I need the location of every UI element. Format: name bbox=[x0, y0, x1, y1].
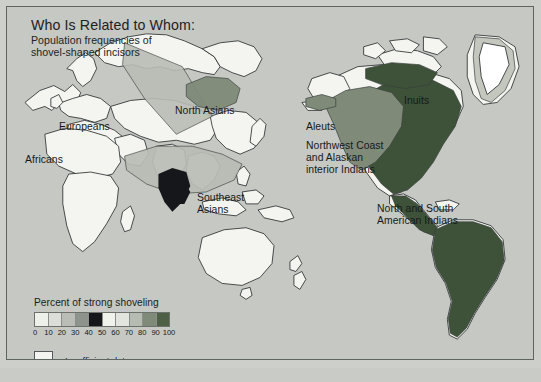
map-label-american-indians-line-1: North and South bbox=[377, 203, 453, 215]
map-label-africans: Africans bbox=[25, 154, 63, 166]
legend-tick-70: 70 bbox=[125, 328, 133, 337]
map-label-southeast-asians-line-1: Southeast bbox=[197, 192, 244, 204]
legend-swatch-3 bbox=[76, 313, 90, 326]
map-label-northwest-coast-line-1: Northwest Coast bbox=[306, 140, 384, 152]
map-label-northwest-coast-line-2: and Alaskan bbox=[306, 152, 363, 164]
legend-insufficient-data-row: Insufficient data bbox=[34, 351, 170, 360]
legend-swatch-5 bbox=[103, 313, 117, 326]
page-subtitle-line-2: shovel-shaped incisors bbox=[31, 46, 195, 59]
legend-swatch-8 bbox=[143, 313, 157, 326]
legend-tick-50: 50 bbox=[98, 328, 106, 337]
title-block: Who Is Related to Whom: Population frequ… bbox=[31, 17, 195, 59]
map-legend: Percent of strong shoveling 010203040506… bbox=[34, 297, 170, 360]
legend-swatch-6 bbox=[116, 313, 130, 326]
legend-insufficient-data-swatch bbox=[34, 351, 53, 360]
legend-tick-40: 40 bbox=[84, 328, 92, 337]
legend-swatch-0 bbox=[35, 313, 49, 326]
legend-title: Percent of strong shoveling bbox=[34, 297, 170, 308]
legend-swatch-4 bbox=[89, 313, 103, 326]
map-label-north-asians: North Asians bbox=[175, 105, 235, 117]
map-label-northwest-coast-line-3: interior Indians bbox=[306, 164, 375, 176]
map-figure-frame: .coast{stroke:#2b2f30;stroke-width:.85;s… bbox=[6, 6, 534, 360]
map-label-southeast-asians-line-2: Asians bbox=[197, 204, 229, 216]
legend-swatch-2 bbox=[62, 313, 76, 326]
figure-root: .coast{stroke:#2b2f30;stroke-width:.85;s… bbox=[0, 0, 541, 382]
legend-color-ramp bbox=[34, 312, 170, 327]
legend-tick-30: 30 bbox=[71, 328, 79, 337]
legend-tick-80: 80 bbox=[138, 328, 146, 337]
map-label-aleuts: Aleuts bbox=[306, 121, 335, 133]
map-label-europeans: Europeans bbox=[59, 121, 110, 133]
legend-swatch-1 bbox=[49, 313, 63, 326]
legend-tick-10: 10 bbox=[44, 328, 52, 337]
legend-swatch-9 bbox=[157, 313, 170, 326]
map-label-american-indians-line-2: American Indians bbox=[377, 215, 458, 227]
legend-insufficient-data-label: Insufficient data bbox=[65, 356, 130, 361]
legend-tick-60: 60 bbox=[111, 328, 119, 337]
legend-tick-labels: 0102030405060708090100 bbox=[34, 328, 170, 340]
page-subtitle-line-1: Population frequencies of bbox=[31, 34, 195, 47]
legend-swatch-7 bbox=[130, 313, 144, 326]
page-title: Who Is Related to Whom: bbox=[31, 17, 195, 34]
legend-tick-90: 90 bbox=[151, 328, 159, 337]
legend-tick-0: 0 bbox=[33, 328, 37, 337]
legend-tick-20: 20 bbox=[58, 328, 66, 337]
map-label-inuits: Inuits bbox=[404, 95, 429, 107]
legend-tick-100: 100 bbox=[163, 328, 175, 337]
